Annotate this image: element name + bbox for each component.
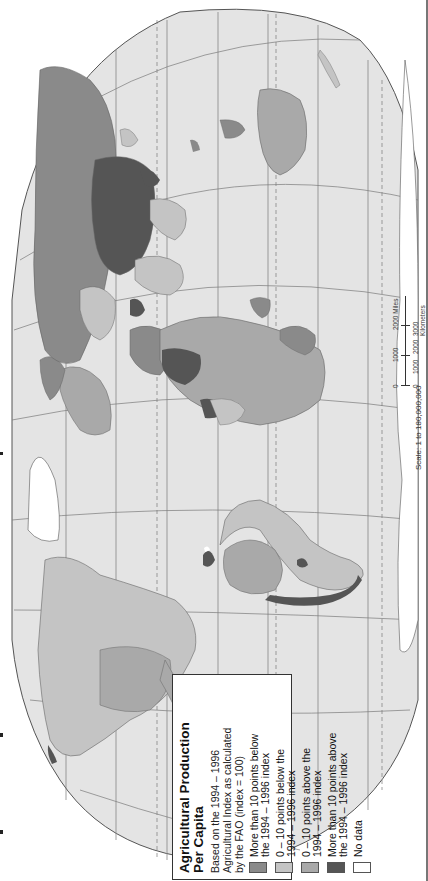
- scale-miles-label: 0: [392, 384, 399, 388]
- legend-swatch-more-than-10-below: [249, 862, 267, 873]
- legend-swatch-more-than-10-above: [327, 862, 345, 873]
- legend-item: More than 10 points above the 1994 – 199…: [327, 681, 349, 873]
- map-page: Agricultural Production Per Capita Based…: [0, 0, 428, 881]
- legend-label-line: No data: [353, 820, 364, 857]
- scale-tick: [401, 385, 410, 386]
- scale-km-label: 1000: [412, 360, 419, 374]
- legend-item: More than 10 points below the 1994 – 199…: [249, 681, 271, 873]
- legend-label: More than 10 points above the 1994 – 199…: [327, 733, 349, 857]
- scale-tick: [401, 355, 410, 356]
- legend-item: No data: [353, 681, 371, 873]
- legend-subtitle: Based on the 1994 – 1996 Agricultural In…: [209, 681, 245, 873]
- legend-title-line1: Agricultural Production: [178, 681, 192, 873]
- legend-title: Agricultural Production Per Capita: [178, 681, 206, 873]
- legend-label: More than 10 points below the 1994 – 199…: [249, 734, 271, 857]
- legend-swatch-0-10-below: [275, 862, 293, 873]
- legend-label-line: the 1994 – 1996 index: [260, 734, 271, 857]
- scale-km-label: 3000 Kilometers: [412, 290, 426, 336]
- legend-subtitle-line3: by the FAO (index = 100): [233, 681, 245, 873]
- cropped-edge-mark: [0, 830, 3, 834]
- legend-label: 0 – 10 points below the 1994 – 1996 inde…: [275, 749, 297, 857]
- legend-label-line: 1994 – 1996 index: [286, 749, 297, 857]
- map-legend: Agricultural Production Per Capita Based…: [172, 674, 292, 880]
- legend-subtitle-line2: Agricultural Index as calculated: [221, 681, 233, 873]
- scale-bar: Scale: 1 to 180,000,000 0 1000 2000 Mile…: [392, 290, 426, 470]
- cropped-edge-mark: [0, 733, 3, 737]
- legend-label-line: 1994 – 1996 index: [312, 748, 323, 857]
- legend-subtitle-line1: Based on the 1994 – 1996: [209, 681, 221, 873]
- scale-km-label: 2000: [412, 340, 419, 354]
- legend-label: 0 – 10 points above the 1994 – 1996 inde…: [301, 748, 323, 857]
- scale-tick: [401, 325, 410, 326]
- scale-caption: Scale: 1 to 180,000,000: [414, 385, 423, 470]
- legend-item: 0 – 10 points above the 1994 – 1996 inde…: [301, 681, 323, 873]
- scale-miles-label: 1000: [392, 348, 399, 362]
- legend-label: No data: [353, 820, 364, 857]
- legend-swatch-no-data: [353, 862, 371, 873]
- legend-swatch-0-10-above: [301, 862, 319, 873]
- scale-km-label: 0: [412, 384, 419, 388]
- cropped-edge-mark: [0, 452, 3, 455]
- scale-line: [405, 296, 406, 386]
- legend-item: 0 – 10 points below the 1994 – 1996 inde…: [275, 681, 297, 873]
- legend-title-line2: Per Capita: [192, 681, 206, 873]
- legend-label-line: the 1994 – 1996 index: [338, 733, 349, 857]
- scale-miles-label: 2000 Miles: [392, 299, 399, 330]
